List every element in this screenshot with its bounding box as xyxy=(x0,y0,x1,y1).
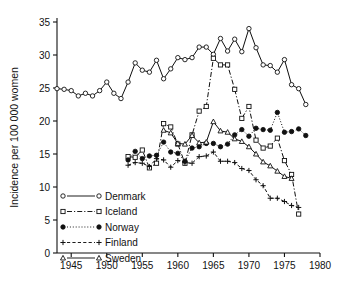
legend-marker xyxy=(97,194,101,198)
data-point xyxy=(225,130,230,135)
legend-marker xyxy=(61,209,65,213)
data-point xyxy=(126,158,130,162)
data-point xyxy=(240,50,244,54)
data-point xyxy=(161,77,165,81)
series-sweden xyxy=(161,119,294,180)
y-axis-tick-label: 0 xyxy=(44,248,50,259)
legend-label: Denmark xyxy=(105,191,147,202)
data-point xyxy=(275,110,279,114)
x-axis-tick-label: 1945 xyxy=(60,260,83,271)
data-point xyxy=(304,133,308,137)
data-point xyxy=(261,146,265,150)
data-point xyxy=(197,109,201,113)
legend-item-iceland[interactable]: Iceland xyxy=(61,206,137,217)
data-point xyxy=(169,125,173,129)
data-point xyxy=(268,163,273,168)
y-axis-title: Incidence per 100 000 women xyxy=(8,67,20,208)
data-point xyxy=(247,104,251,108)
data-point xyxy=(97,88,101,92)
data-point xyxy=(247,26,251,30)
data-point xyxy=(133,61,137,65)
data-point xyxy=(304,102,308,106)
data-point xyxy=(154,161,158,165)
series-line xyxy=(128,152,299,207)
data-point xyxy=(233,37,237,41)
data-point xyxy=(275,70,279,74)
data-point xyxy=(105,80,109,84)
data-point xyxy=(218,145,222,149)
data-series-layer xyxy=(55,26,308,216)
y-axis-tick-label: 30 xyxy=(39,50,51,61)
data-point xyxy=(190,146,194,150)
data-point xyxy=(211,56,215,60)
data-point xyxy=(176,151,180,155)
data-point xyxy=(246,144,251,149)
data-point xyxy=(275,169,280,174)
data-point xyxy=(183,57,187,61)
legend-marker xyxy=(61,225,65,229)
series-denmark xyxy=(55,26,308,106)
data-point xyxy=(147,154,151,158)
legend-marker xyxy=(97,225,101,229)
series-finland xyxy=(125,149,301,210)
data-point xyxy=(254,138,258,142)
data-point xyxy=(289,129,293,133)
data-point xyxy=(218,36,222,40)
axes: 0510152025303519451950195519601965197019… xyxy=(8,17,332,271)
data-point xyxy=(176,55,180,59)
data-point xyxy=(83,91,87,95)
data-point xyxy=(126,80,130,84)
data-point xyxy=(169,150,173,154)
data-point xyxy=(162,122,166,126)
data-point xyxy=(168,130,173,135)
data-point xyxy=(261,63,265,67)
x-axis-tick-label: 1970 xyxy=(238,260,261,271)
data-point xyxy=(204,45,208,49)
legend-item-denmark[interactable]: Denmark xyxy=(61,191,147,202)
line-chart: 0510152025303519451950195519601965197019… xyxy=(0,0,344,299)
data-point xyxy=(247,134,251,138)
data-point xyxy=(154,58,158,62)
data-point xyxy=(254,126,258,130)
legend-marker xyxy=(97,255,102,260)
legend-marker xyxy=(61,194,65,198)
series-line xyxy=(128,58,299,214)
legend-label: Norway xyxy=(105,222,139,233)
data-point xyxy=(211,141,215,145)
legend-item-finland[interactable]: Finland xyxy=(60,237,137,248)
y-axis-tick-label: 5 xyxy=(44,215,50,226)
data-point xyxy=(240,116,244,120)
data-point xyxy=(119,96,123,100)
data-point xyxy=(169,67,173,71)
data-point xyxy=(296,86,300,90)
y-axis-tick-label: 15 xyxy=(39,149,51,160)
data-point xyxy=(268,63,272,67)
data-point xyxy=(140,148,144,152)
legend-label: Finland xyxy=(105,237,138,248)
data-point xyxy=(204,104,208,108)
data-point xyxy=(197,45,201,49)
data-point xyxy=(133,155,137,159)
x-axis-tick-label: 1960 xyxy=(167,260,190,271)
legend-marker xyxy=(61,255,66,260)
data-point xyxy=(161,140,165,144)
legend-label: Sweden xyxy=(105,253,141,264)
y-axis-tick-label: 20 xyxy=(39,116,51,127)
data-point xyxy=(289,83,293,87)
data-point xyxy=(204,140,209,145)
data-point xyxy=(140,156,144,160)
legend-item-norway[interactable]: Norway xyxy=(61,222,139,233)
data-point xyxy=(190,55,194,59)
chart-figure: 0510152025303519451950195519601965197019… xyxy=(0,0,344,299)
data-point xyxy=(268,128,272,132)
data-point xyxy=(133,149,137,153)
series-iceland xyxy=(126,56,301,216)
series-markers xyxy=(161,119,294,180)
data-point xyxy=(225,63,229,67)
data-point xyxy=(240,127,244,131)
data-point xyxy=(62,87,66,91)
series-markers xyxy=(126,56,301,216)
series-markers xyxy=(125,149,301,210)
data-point xyxy=(297,212,301,216)
data-point xyxy=(275,136,279,140)
